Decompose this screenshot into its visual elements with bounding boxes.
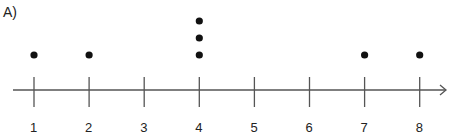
dot-plot <box>0 0 451 134</box>
tick-label: 5 <box>250 120 257 134</box>
data-dot <box>196 51 203 58</box>
tick-label: 4 <box>195 120 202 134</box>
tick-label: 8 <box>416 120 423 134</box>
data-dot <box>30 51 37 58</box>
tick-label: 7 <box>361 120 368 134</box>
data-dot <box>196 34 203 41</box>
data-dot <box>361 51 368 58</box>
tick-label: 6 <box>306 120 313 134</box>
tick-label: 2 <box>85 120 92 134</box>
data-dot <box>86 51 93 58</box>
tick-label: 3 <box>140 120 147 134</box>
data-dot <box>196 17 203 24</box>
data-dot <box>416 51 423 58</box>
tick-label: 1 <box>30 120 37 134</box>
